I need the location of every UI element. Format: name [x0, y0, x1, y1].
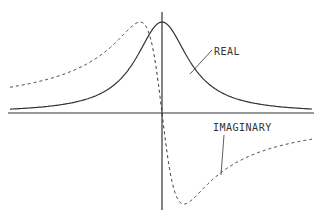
resonance-diagram: REAL IMAGINARY	[0, 0, 322, 215]
real-leader-line	[190, 50, 212, 74]
real-label: REAL	[214, 46, 240, 57]
imaginary-leader-line	[221, 135, 224, 175]
real-curve	[10, 22, 312, 109]
imaginary-label: IMAGINARY	[213, 122, 272, 133]
